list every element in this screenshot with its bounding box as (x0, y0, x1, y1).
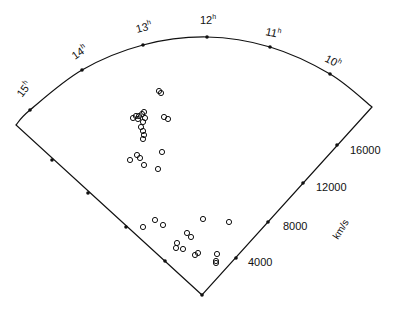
velocity-label-16000: 16000 (350, 144, 381, 156)
ra-label-11h: 11h (265, 24, 283, 40)
axis-labels: 15h14h13h12h11h10h400080001200016000 (13, 13, 380, 268)
galaxy-point (141, 162, 146, 167)
galaxy-point (127, 157, 132, 162)
data-points (127, 88, 231, 265)
left-edge-tick-2 (124, 225, 128, 229)
galaxy-point (200, 216, 205, 221)
wedge-boundary (16, 37, 372, 295)
galaxy-point (137, 155, 142, 160)
galaxy-point (226, 219, 231, 224)
galaxy-point (174, 240, 179, 245)
wedge-outline (16, 37, 372, 295)
ra-tick-11h (268, 45, 272, 49)
ra-tick-13h (141, 43, 145, 47)
velocity-tick-4000 (234, 256, 238, 260)
galaxy-point (160, 222, 165, 227)
galaxy-point (159, 149, 164, 154)
velocity-label-4000: 4000 (248, 256, 272, 268)
galaxy-point (152, 217, 157, 222)
galaxy-point (214, 251, 219, 256)
ra-label-13h: 13h (134, 18, 153, 35)
velocity-tick-16000 (335, 143, 339, 147)
velocity-label-12000: 12000 (316, 181, 347, 193)
galaxy-point (134, 152, 139, 157)
ra-label-15h: 15h (13, 78, 33, 99)
ra-label-14h: 14h (69, 42, 90, 62)
ra-label-10h: 10h (323, 51, 343, 70)
galaxy-point (173, 245, 178, 250)
apex-dot (200, 293, 204, 297)
galaxy-point (155, 166, 160, 171)
velocity-tick-12000 (301, 181, 305, 185)
radial-axis-unit-label: km/s (330, 217, 351, 241)
ra-tick-14h (80, 68, 84, 72)
velocity-label-8000: 8000 (283, 220, 307, 232)
velocity-tick-8000 (266, 220, 270, 224)
galaxy-point (180, 246, 185, 251)
ra-label-12h: 12h (200, 13, 216, 26)
ra-tick-12h (205, 35, 209, 39)
galaxy-point (188, 234, 193, 239)
wedge-diagram: 15h14h13h12h11h10h400080001200016000 km/… (0, 0, 396, 313)
ra-tick-10h (328, 72, 332, 76)
left-edge-tick-3 (163, 259, 167, 263)
ra-tick-15h (28, 108, 32, 112)
left-edge-tick-0 (50, 158, 54, 162)
left-edge-tick-1 (86, 191, 90, 195)
galaxy-point (140, 224, 145, 229)
